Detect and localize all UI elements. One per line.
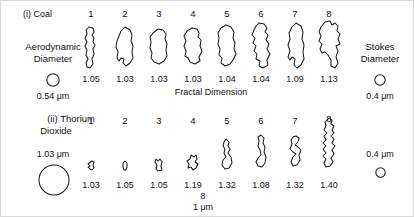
coal-column-number-3: 3 [142,8,176,19]
coal-column-number-8: 8 [312,8,346,19]
coal-particle-4 [176,25,210,71]
thorium-fractal-dimension-1: 1.03 [74,180,108,190]
coal-column-number-4: 4 [176,8,210,19]
coal-stokes-diameter-value: 0.4 μm [351,91,409,102]
coal-particle-3 [142,25,176,71]
thorium-particle-4 [176,137,210,177]
coal-stokes-label-line1: Stokes [349,41,411,53]
thorium-fractal-dimension-2: 1.05 [108,180,142,190]
thorium-particle-5 [210,129,244,177]
coal-column-number-1: 1 [74,8,108,19]
coal-fractal-dimension-1: 1.05 [74,74,108,84]
coal-particle-8 [312,21,346,71]
coal-fractal-dimension-8: 1.13 [312,74,346,84]
coal-column-number-2: 2 [108,8,142,19]
coal-fractal-dimension-5: 1.04 [210,74,244,84]
scale-number: 8 [193,191,213,202]
coal-particle-2 [108,25,142,71]
thorium-column-number-6: 6 [244,115,278,126]
coal-fractal-dimension-4: 1.03 [176,74,210,84]
coal-particle-7 [278,23,312,71]
thorium-particle-3 [142,139,176,177]
thorium-aerodynamic-circle [38,164,70,196]
thorium-fractal-dimension-6: 1.08 [244,180,278,190]
thorium-column-number-4: 4 [176,115,210,126]
coal-stokes-diameter-label: Stokes Diameter [349,41,411,64]
coal-aerodynamic-circle [46,73,60,87]
coal-stokes-circle [374,74,386,86]
thorium-fractal-dimension-3: 1.05 [142,180,176,190]
coal-particle-1 [74,25,108,71]
coal-particle-6 [244,23,278,71]
panel-thorium-title-line2: Dioxide [17,125,95,137]
thorium-column-number-7: 7 [278,115,312,126]
thorium-stokes-diameter-value: 0.4 μm [351,149,409,160]
coal-particle-5 [210,25,244,71]
fractal-dimension-caption: Fractal Dimension [131,87,291,98]
thorium-column-number-1: 1 [74,115,108,126]
thorium-particle-1 [74,141,108,177]
thorium-particle-8 [312,119,346,177]
thorium-fractal-dimension-7: 1.32 [278,180,312,190]
thorium-column-number-2: 2 [108,115,142,126]
coal-fractal-dimension-3: 1.03 [142,74,176,84]
thorium-particle-7 [278,127,312,177]
coal-column-number-6: 6 [244,8,278,19]
panel-coal-title: (i) Coal [23,9,52,20]
scale-bar-label: 1 μm [181,202,225,213]
thorium-fractal-dimension-4: 1.19 [176,180,210,190]
thorium-particle-2 [108,141,142,177]
coal-column-number-7: 7 [278,8,312,19]
thorium-stokes-circle [375,167,386,178]
thorium-fractal-dimension-5: 1.32 [210,180,244,190]
coal-aerodynamic-diameter-value: 0.54 μm [23,91,83,102]
thorium-particle-6 [244,127,278,177]
thorium-fractal-dimension-8: 1.40 [312,180,346,190]
coal-stokes-label-line2: Diameter [349,53,411,65]
coal-column-number-5: 5 [210,8,244,19]
coal-fractal-dimension-6: 1.04 [244,74,278,84]
coal-fractal-dimension-2: 1.03 [108,74,142,84]
thorium-column-number-3: 3 [142,115,176,126]
thorium-column-number-5: 5 [210,115,244,126]
coal-fractal-dimension-7: 1.09 [278,74,312,84]
figure-panel: (i) Coal Aerodynamic Diameter 0.54 μm 1 … [0,0,414,217]
